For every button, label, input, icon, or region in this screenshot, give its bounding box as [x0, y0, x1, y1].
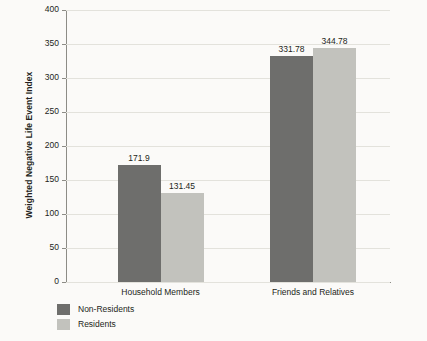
bar: [313, 48, 356, 282]
x-axis-category-label: Friends and Relatives: [243, 287, 383, 297]
bar-value-label: 171.9: [110, 153, 169, 163]
bar-value-label: 131.45: [153, 181, 212, 191]
bar-value-label: 344.78: [305, 36, 364, 46]
tick-mark: [62, 180, 66, 181]
plot-area: 050100150200250300350400 171.9131.45331.…: [66, 10, 390, 282]
legend-label: Residents: [78, 319, 116, 330]
y-axis-tick-label: 250: [45, 106, 59, 116]
bar: [161, 193, 204, 282]
y-axis-tick-label: 150: [45, 174, 59, 184]
tick-mark: [62, 282, 66, 283]
gridline: [66, 282, 390, 283]
bar: [270, 56, 313, 282]
tick-mark: [62, 146, 66, 147]
y-axis-tick-label: 400: [45, 4, 59, 14]
y-axis-tick-label: 100: [45, 208, 59, 218]
y-axis-title: Weighted Negative Life Event Index: [24, 30, 34, 260]
legend-swatch-icon: [57, 304, 70, 315]
x-axis-category-label: Household Members: [91, 287, 231, 297]
gridline: [66, 10, 390, 11]
y-axis-tick-label: 200: [45, 140, 59, 150]
y-axis-tick-label: 300: [45, 72, 59, 82]
tick-mark: [62, 10, 66, 11]
tick-mark: [62, 44, 66, 45]
tick-mark: [62, 248, 66, 249]
legend-swatch-icon: [57, 319, 70, 330]
legend-label: Non-Residents: [78, 304, 134, 315]
y-axis-tick-label: 0: [54, 276, 59, 286]
y-axis-tick-label: 50: [50, 242, 59, 252]
tick-mark: [62, 214, 66, 215]
tick-mark: [62, 112, 66, 113]
bar-chart: Weighted Negative Life Event Index 05010…: [0, 0, 427, 341]
tick-mark: [62, 78, 66, 79]
y-axis-tick-label: 350: [45, 38, 59, 48]
